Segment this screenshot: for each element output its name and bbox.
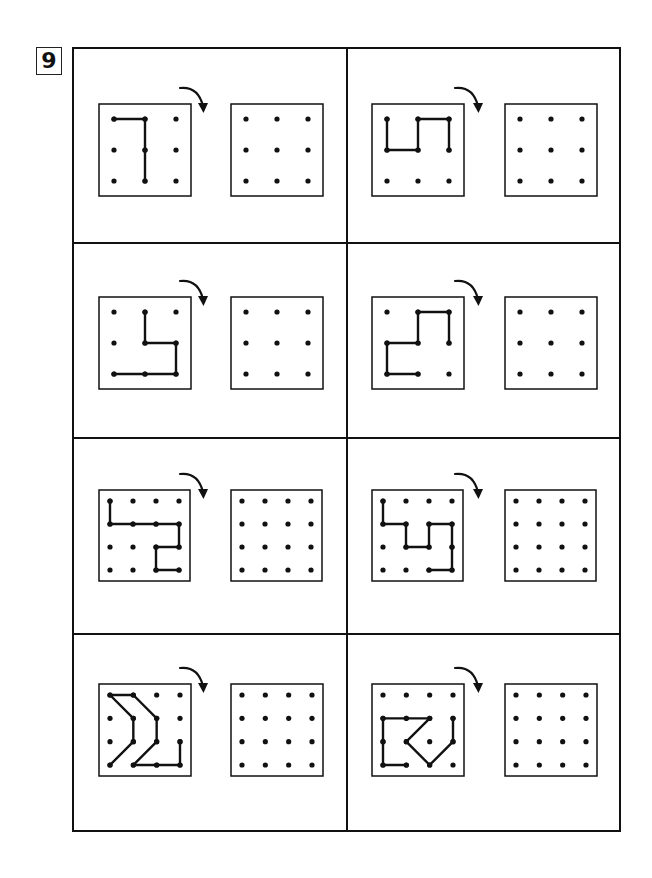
grid-dot[interactable] [274, 178, 279, 183]
grid-dot[interactable] [286, 762, 291, 767]
grid-dot[interactable] [582, 498, 587, 503]
grid-dot[interactable] [239, 716, 244, 721]
grid-dot[interactable] [239, 739, 244, 744]
grid-dot[interactable] [309, 692, 314, 697]
grid-dot[interactable] [285, 567, 290, 572]
grid-dot[interactable] [274, 340, 279, 345]
grid-dot[interactable] [517, 147, 522, 152]
answer-dot-grid[interactable] [505, 684, 597, 776]
grid-dot[interactable] [559, 567, 564, 572]
grid-dot[interactable] [517, 309, 522, 314]
grid-dot[interactable] [537, 739, 542, 744]
grid-dot[interactable] [579, 309, 584, 314]
grid-dot[interactable] [285, 521, 290, 526]
answer-dot-grid[interactable] [505, 490, 596, 581]
grid-dot[interactable] [285, 544, 290, 549]
grid-dot[interactable] [560, 739, 565, 744]
answer-dot-grid[interactable] [231, 297, 323, 389]
grid-dot[interactable] [579, 340, 584, 345]
grid-dot[interactable] [583, 762, 588, 767]
grid-dot[interactable] [582, 521, 587, 526]
grid-dot[interactable] [559, 544, 564, 549]
grid-dot[interactable] [559, 498, 564, 503]
grid-dot[interactable] [274, 309, 279, 314]
grid-dot[interactable] [262, 498, 267, 503]
grid-dot[interactable] [517, 178, 522, 183]
grid-dot[interactable] [537, 762, 542, 767]
grid-dot[interactable] [548, 309, 553, 314]
grid-dot[interactable] [513, 762, 518, 767]
grid-dot[interactable] [583, 739, 588, 744]
answer-dot-grid[interactable] [231, 684, 323, 776]
grid-dot[interactable] [285, 498, 290, 503]
grid-dot[interactable] [513, 544, 518, 549]
grid-dot[interactable] [579, 116, 584, 121]
answer-dot-grid[interactable] [231, 104, 323, 196]
grid-dot[interactable] [243, 340, 248, 345]
grid-dot[interactable] [262, 521, 267, 526]
grid-dot[interactable] [548, 147, 553, 152]
grid-dot[interactable] [513, 739, 518, 744]
grid-dot[interactable] [263, 762, 268, 767]
grid-dot[interactable] [579, 147, 584, 152]
grid-dot[interactable] [308, 544, 313, 549]
grid-dot[interactable] [582, 567, 587, 572]
grid-dot[interactable] [579, 178, 584, 183]
grid-dot[interactable] [239, 544, 244, 549]
grid-dot[interactable] [582, 544, 587, 549]
grid-dot[interactable] [243, 309, 248, 314]
grid-dot[interactable] [239, 498, 244, 503]
grid-dot[interactable] [517, 371, 522, 376]
grid-dot[interactable] [548, 340, 553, 345]
grid-dot[interactable] [536, 498, 541, 503]
grid-dot[interactable] [305, 371, 310, 376]
grid-dot[interactable] [513, 692, 518, 697]
grid-dot[interactable] [513, 521, 518, 526]
grid-dot[interactable] [263, 739, 268, 744]
grid-dot[interactable] [263, 692, 268, 697]
grid-dot[interactable] [239, 521, 244, 526]
grid-dot[interactable] [579, 371, 584, 376]
grid-dot[interactable] [305, 340, 310, 345]
grid-dot[interactable] [274, 147, 279, 152]
grid-dot[interactable] [274, 371, 279, 376]
grid-dot[interactable] [583, 692, 588, 697]
grid-dot[interactable] [243, 371, 248, 376]
grid-dot[interactable] [262, 567, 267, 572]
grid-dot[interactable] [560, 716, 565, 721]
grid-dot[interactable] [305, 178, 310, 183]
grid-dot[interactable] [309, 716, 314, 721]
grid-dot[interactable] [548, 178, 553, 183]
grid-dot[interactable] [262, 544, 267, 549]
grid-dot[interactable] [274, 116, 279, 121]
grid-dot[interactable] [243, 116, 248, 121]
answer-dot-grid[interactable] [505, 104, 597, 196]
grid-dot[interactable] [286, 692, 291, 697]
grid-dot[interactable] [308, 521, 313, 526]
grid-dot[interactable] [583, 716, 588, 721]
grid-dot[interactable] [243, 178, 248, 183]
grid-dot[interactable] [560, 762, 565, 767]
grid-dot[interactable] [308, 567, 313, 572]
grid-dot[interactable] [517, 116, 522, 121]
answer-dot-grid[interactable] [231, 490, 322, 581]
grid-dot[interactable] [536, 521, 541, 526]
grid-dot[interactable] [309, 762, 314, 767]
grid-dot[interactable] [548, 371, 553, 376]
grid-dot[interactable] [513, 567, 518, 572]
grid-dot[interactable] [286, 716, 291, 721]
grid-dot[interactable] [243, 147, 248, 152]
grid-dot[interactable] [305, 309, 310, 314]
grid-dot[interactable] [537, 716, 542, 721]
answer-dot-grid[interactable] [505, 297, 597, 389]
grid-dot[interactable] [536, 544, 541, 549]
grid-dot[interactable] [305, 147, 310, 152]
grid-dot[interactable] [239, 567, 244, 572]
grid-dot[interactable] [517, 340, 522, 345]
grid-dot[interactable] [239, 692, 244, 697]
grid-dot[interactable] [513, 716, 518, 721]
grid-dot[interactable] [286, 739, 291, 744]
grid-dot[interactable] [548, 116, 553, 121]
grid-dot[interactable] [537, 692, 542, 697]
grid-dot[interactable] [536, 567, 541, 572]
